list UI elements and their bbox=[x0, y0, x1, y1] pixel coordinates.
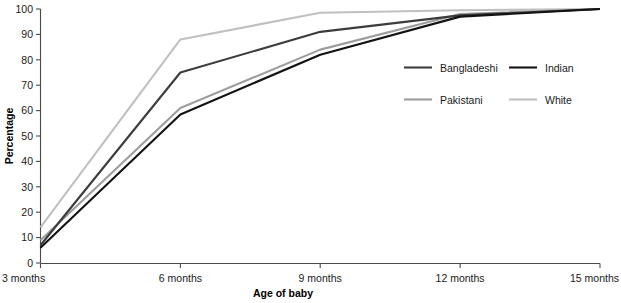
y-axis-title: Percentage bbox=[3, 108, 15, 165]
x-tick-label-6months: 6 months bbox=[159, 272, 202, 284]
legend-label-white: White bbox=[545, 94, 572, 106]
series-line-indian bbox=[41, 9, 601, 248]
legend-label-indian: Indian bbox=[545, 62, 574, 74]
y-tick-label-40: 40 bbox=[21, 155, 33, 167]
x-axis-title: Age of baby bbox=[253, 287, 313, 299]
legend-label-pakistani: Pakistani bbox=[440, 94, 483, 106]
y-tick-label-70: 70 bbox=[21, 79, 33, 91]
chart-svg: 0 10 20 30 40 50 60 70 80 90 100 Percent… bbox=[0, 0, 621, 303]
series-group bbox=[41, 9, 601, 248]
y-tick-label-30: 30 bbox=[21, 181, 33, 193]
line-chart: 0 10 20 30 40 50 60 70 80 90 100 Percent… bbox=[0, 0, 621, 303]
y-tick-label-0: 0 bbox=[27, 257, 33, 269]
y-tick-label-60: 60 bbox=[21, 104, 33, 116]
y-tick-label-10: 10 bbox=[21, 231, 33, 243]
series-line-white bbox=[41, 9, 601, 227]
series-line-pakistani bbox=[41, 9, 601, 240]
x-tick-label-3months: 3 months bbox=[2, 272, 45, 284]
x-axis-ticks bbox=[41, 264, 601, 269]
x-axis-tick-labels: 3 months 6 months 9 months 12 months 15 … bbox=[2, 272, 619, 284]
x-tick-label-9months: 9 months bbox=[299, 272, 342, 284]
x-tick-label-15months: 15 months bbox=[570, 272, 619, 284]
series-line-bangladeshi bbox=[41, 9, 601, 245]
y-tick-label-50: 50 bbox=[21, 130, 33, 142]
y-tick-label-20: 20 bbox=[21, 206, 33, 218]
x-tick-label-12months: 12 months bbox=[436, 272, 485, 284]
legend-label-bangladeshi: Bangladeshi bbox=[440, 62, 498, 74]
y-tick-label-90: 90 bbox=[21, 28, 33, 40]
y-axis-ticks bbox=[36, 9, 41, 263]
y-tick-label-80: 80 bbox=[21, 54, 33, 66]
y-axis-tick-labels: 0 10 20 30 40 50 60 70 80 90 100 bbox=[15, 3, 33, 269]
chart-legend: Bangladeshi Indian Pakistani White bbox=[404, 62, 574, 106]
y-tick-label-100: 100 bbox=[15, 3, 33, 15]
